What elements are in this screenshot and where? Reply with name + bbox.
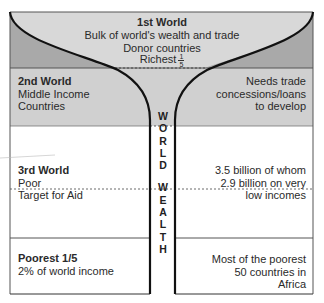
second-world-left-line1: Middle Income [18,88,90,101]
third-world-left-line1: Poor [18,177,41,190]
stem-letter: W [150,181,176,193]
third-world-title: 3rd World [18,164,69,177]
stem-letter: E [150,194,176,206]
stem-letter: H [150,243,176,255]
poorest-right-line1: Most of the poorest [180,253,306,266]
fraction: 15 [178,53,184,68]
poorest-title: Poorest 1/5 [18,252,77,265]
poorest-left-line1: 2% of world income [18,265,114,278]
second-world-right-line2: concessions/loans [190,88,306,101]
world-wealth-funnel-diagram: 1st World Bulk of world's wealth and tra… [0,0,324,303]
fraction-denominator: 5 [178,61,184,68]
stem-letter: L [150,218,176,230]
second-world-title: 2nd World [18,75,72,88]
stem-label-world-wealth: W O R L D W E A L T H [150,110,176,255]
second-world-left-line2: Countries [18,100,65,113]
stem-letter: W [150,110,176,122]
first-world-line1: Bulk of world's wealth and trade [60,29,264,42]
first-world-title: 1st World [60,16,264,29]
stem-letter: R [150,135,176,147]
stem-letter: T [150,231,176,243]
stem-gap [150,171,176,181]
third-world-left-line2: Target for Aid [18,189,83,202]
poorest-right-line2: 50 countries in [180,266,306,279]
third-world-right-line3: low incomes [180,189,306,202]
stem-letter: L [150,147,176,159]
stem-letter: A [150,206,176,218]
third-world-right-line1: 3.5 billion of whom [180,164,306,177]
stem-letter: O [150,122,176,134]
first-world-line3: Richest15 [60,53,264,68]
third-world-right-line2: 2.9 billion on very [180,177,306,190]
second-world-right-line1: Needs trade [190,75,306,88]
richest-label: Richest [140,53,177,65]
second-world-right-line3: to develop [190,100,306,113]
poorest-right-line3: Africa [180,278,306,291]
fraction-numerator: 1 [178,53,184,61]
stem-letter: D [150,159,176,171]
